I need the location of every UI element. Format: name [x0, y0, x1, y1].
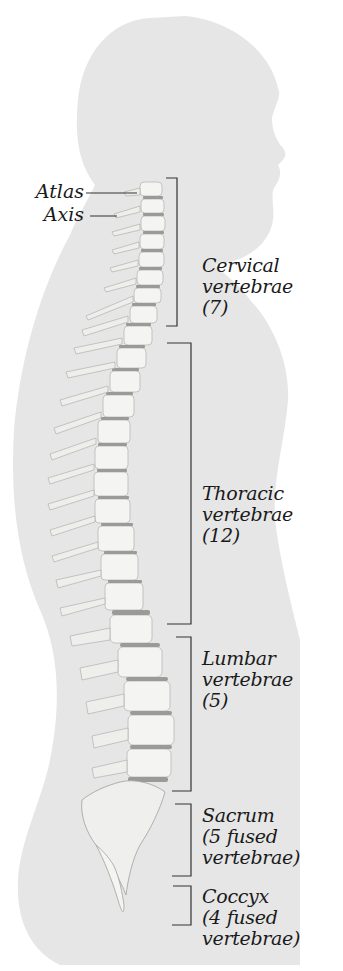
lumbar-count: (5)	[202, 690, 293, 711]
cervical-count: (7)	[202, 297, 293, 318]
coccyx-line-3: vertebrae)	[202, 928, 300, 949]
sacrum-line-2: (5 fused	[202, 826, 300, 847]
cervical-line-1: Cervical	[202, 255, 293, 276]
thoracic-line-2: vertebrae	[202, 504, 293, 525]
region-label-sacrum: Sacrum (5 fused vertebrae)	[202, 805, 300, 868]
cervical-line-2: vertebrae	[202, 276, 293, 297]
lumbar-line-2: vertebrae	[202, 669, 293, 690]
sacrum-line-3: vertebrae)	[202, 847, 300, 868]
coccyx-line-1: Coccyx	[202, 886, 300, 907]
region-label-cervical: Cervical vertebrae (7)	[202, 255, 293, 318]
lumbar-line-1: Lumbar	[202, 648, 293, 669]
region-label-thoracic: Thoracic vertebrae (12)	[202, 483, 293, 546]
coccyx-line-2: (4 fused	[202, 907, 300, 928]
atlas-label: Atlas	[0, 180, 84, 202]
sacrum-line-1: Sacrum	[202, 805, 300, 826]
axis-label: Axis	[0, 203, 84, 225]
thoracic-line-1: Thoracic	[202, 483, 293, 504]
thoracic-count: (12)	[202, 525, 293, 546]
region-label-lumbar: Lumbar vertebrae (5)	[202, 648, 293, 711]
region-label-coccyx: Coccyx (4 fused vertebrae)	[202, 886, 300, 949]
